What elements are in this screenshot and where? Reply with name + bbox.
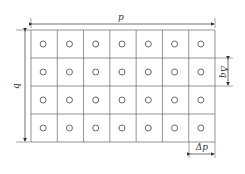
cell-circle-marker: [172, 97, 178, 103]
cell-circle-marker: [198, 69, 204, 75]
q-dimension: q: [11, 30, 31, 142]
cell-circle-marker: [172, 41, 178, 47]
cell-circle-marker: [119, 69, 125, 75]
p-label: p: [118, 12, 124, 22]
cell-circle-marker: [119, 97, 125, 103]
cell-circle-marker: [119, 125, 125, 131]
cell-circle-marker: [40, 97, 46, 103]
cell-circle-marker: [66, 41, 72, 47]
cell-circle-marker: [145, 125, 151, 131]
cell-circle-marker: [145, 97, 151, 103]
cell-circle-marker: [66, 97, 72, 103]
p-dimension: p: [31, 12, 215, 28]
cell-circle-marker: [145, 41, 151, 47]
cell-circle-marker: [172, 125, 178, 131]
cell-circle-marker: [40, 125, 46, 131]
cell-circle-marker: [145, 69, 151, 75]
grid-diagram: p q Δq Δp: [0, 0, 245, 174]
delta-q-label: Δq: [219, 65, 229, 78]
cell-circle-marker: [93, 41, 99, 47]
cell-circle-marker: [66, 125, 72, 131]
cell-circle-marker: [198, 41, 204, 47]
cell-circle-marker: [93, 69, 99, 75]
delta-q-dimension: Δq: [215, 58, 233, 86]
cell-circle-marker: [40, 41, 46, 47]
cell-circle-marker: [40, 69, 46, 75]
cell-circle-marker: [119, 41, 125, 47]
delta-p-label: Δp: [195, 142, 208, 152]
cell-circle-marker: [198, 125, 204, 131]
cell-circle-marker: [93, 97, 99, 103]
q-label: q: [11, 83, 21, 89]
cell-circle-marker: [66, 69, 72, 75]
cell-circle-marker: [198, 97, 204, 103]
cell-circle-marker: [172, 69, 178, 75]
delta-p-dimension: Δp: [189, 142, 215, 158]
cell-circle-marker: [93, 125, 99, 131]
